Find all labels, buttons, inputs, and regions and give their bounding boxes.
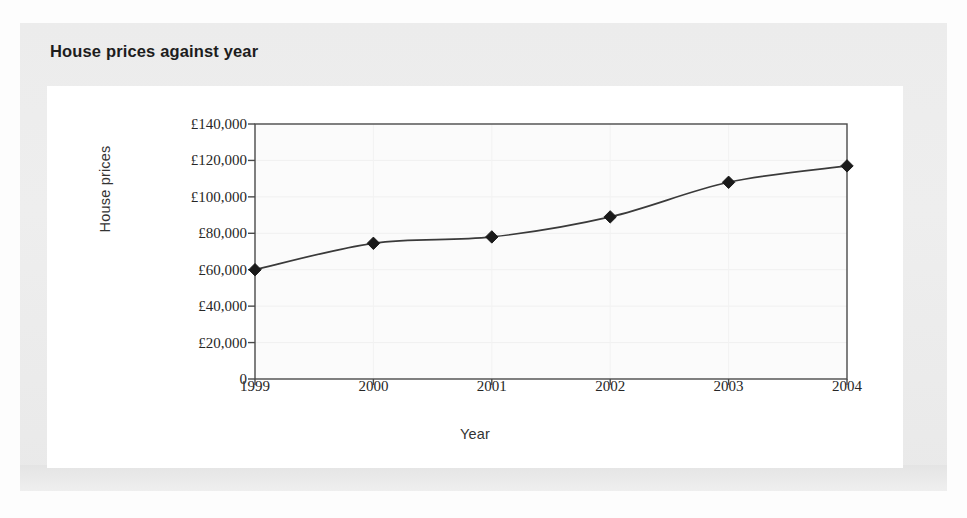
- plot-background: [255, 124, 847, 379]
- plot-area: [47, 86, 903, 468]
- page-root: House prices against year House prices Y…: [0, 0, 967, 518]
- line-chart: House prices Year £140,000£120,000£100,0…: [47, 86, 903, 468]
- chart-card: House prices Year £140,000£120,000£100,0…: [47, 86, 903, 468]
- page-title: House prices against year: [50, 42, 258, 61]
